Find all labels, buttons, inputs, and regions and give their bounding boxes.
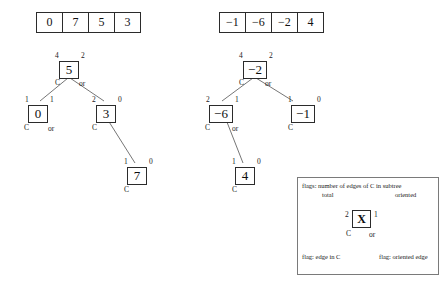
legend-label-edge-in-c: flag: edge in C	[302, 254, 340, 261]
left-tree-node-root-flag-total: 4	[55, 52, 59, 60]
right-tree-node-right-flag-total: 1	[288, 96, 292, 104]
right-tree-node-left-flag-c: C	[205, 124, 210, 132]
left-tree-node-left: 0	[28, 105, 48, 123]
left-tree-node-leaf-flag-oriented: 0	[149, 158, 153, 166]
left-tree-node-root-flag-c: C	[55, 79, 60, 87]
left-tree-node-leaf: 7	[127, 167, 147, 185]
figure-canvas: 0 7 5 3 −1 −6 −2 4 5 4 2 C or 0 1 1 C or…	[0, 0, 444, 285]
right-tree-node-leaf-flag-total: 1	[232, 158, 236, 166]
right-tree-node-left: −6	[209, 105, 233, 123]
edge-l-root-to-l-left	[40, 78, 68, 101]
array-cell: 5	[89, 13, 115, 32]
right-tree-node-left-flag-oriented: 1	[235, 96, 239, 104]
right-tree-node-root-flag-oriented: 2	[269, 52, 273, 60]
right-tree-node-right: −1	[291, 105, 315, 123]
legend-node-flag-oriented: 1	[374, 211, 378, 219]
array-cell: −6	[246, 13, 272, 32]
edge-l-right-to-l-leaf	[106, 117, 135, 163]
right-tree-node-leaf: 4	[235, 167, 255, 185]
left-tree-node-right-flag-oriented: 0	[118, 96, 122, 104]
right-tree-node-root: −2	[243, 61, 267, 79]
array-cell: −1	[220, 13, 246, 32]
left-tree-node-right-flag-total: 2	[92, 96, 96, 104]
right-array: −1 −6 −2 4	[219, 12, 324, 33]
array-cell: 7	[63, 13, 89, 32]
left-tree-node-left-flag-or: or	[48, 125, 54, 133]
edge-l-root-to-l-right	[70, 78, 104, 101]
left-array: 0 7 5 3	[36, 12, 141, 33]
left-tree-node-left-flag-oriented: 1	[50, 96, 54, 104]
legend-label-oriented-edge: flag: oriented edge	[379, 254, 428, 261]
left-tree-node-root: 5	[59, 61, 79, 79]
right-tree-node-root-flag-c: C	[239, 79, 244, 87]
array-cell: 3	[115, 13, 140, 32]
array-cell: −2	[272, 13, 298, 32]
left-tree-node-root-flag-or: or	[79, 80, 85, 88]
right-tree-node-right-flag-c: C	[288, 124, 293, 132]
right-tree-node-leaf-flag-oriented: 0	[257, 158, 261, 166]
right-tree-node-left-flag-total: 2	[206, 96, 210, 104]
legend-node-flag-total: 2	[345, 211, 349, 219]
left-tree-node-left-flag-total: 1	[25, 96, 29, 104]
left-tree-node-leaf-flag-c: C	[124, 186, 129, 194]
array-cell: 0	[37, 13, 63, 32]
right-tree-node-leaf-flag-c: C	[232, 186, 237, 194]
legend-node: X	[352, 210, 371, 228]
legend-label-oriented: oriented	[395, 192, 416, 199]
left-tree-node-leaf-flag-total: 1	[124, 158, 128, 166]
legend-heading: flags: number of edges of C in subtree	[302, 183, 401, 190]
legend-node-flag-c: C	[346, 230, 351, 238]
legend-node-flag-or: or	[369, 231, 375, 239]
left-tree-node-right: 3	[96, 105, 116, 123]
right-tree-node-root-flag-total: 4	[239, 52, 243, 60]
array-cell: 4	[298, 13, 323, 32]
right-tree-node-root-flag-or: or	[265, 80, 271, 88]
left-tree-node-root-flag-oriented: 2	[81, 52, 85, 60]
right-tree-node-left-flag-or: or	[232, 125, 238, 133]
left-tree-node-right-flag-c: C	[92, 124, 97, 132]
right-tree-node-right-flag-oriented: 0	[317, 96, 321, 104]
legend-label-total: total	[322, 192, 334, 199]
left-tree-node-left-flag-c: C	[24, 124, 29, 132]
